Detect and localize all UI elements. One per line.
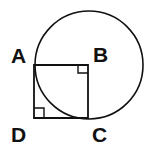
right-angle-mark-d bbox=[34, 108, 44, 118]
right-angle-mark-b bbox=[78, 65, 88, 73]
label-a: A bbox=[11, 44, 26, 67]
label-d: D bbox=[11, 123, 26, 146]
label-b: B bbox=[93, 43, 108, 66]
label-c: C bbox=[92, 123, 107, 146]
geometry-diagram: A B C D bbox=[0, 0, 152, 146]
